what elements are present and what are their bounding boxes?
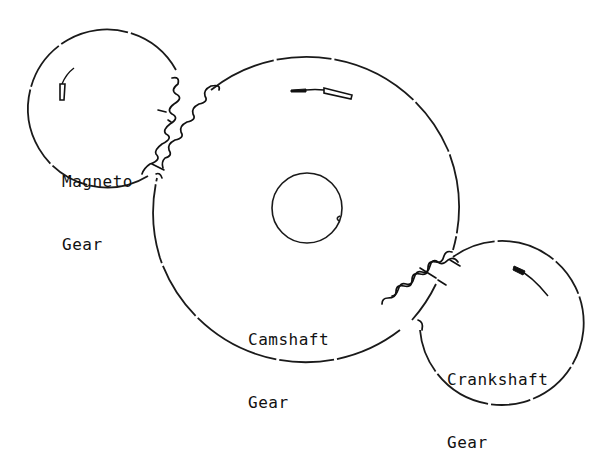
crankshaft-gear-label-line2: Gear [447,432,548,452]
camshaft-hub [272,173,342,243]
crankshaft-gear-label: Crankshaft Gear [447,327,548,452]
crankshaft-rotation-arrow-head-icon [513,266,525,275]
camshaft-rotation-arrow-body-icon [324,88,352,99]
magneto-tooth-tick [168,120,171,122]
magneto-rotation-arrow-head-icon [60,84,65,100]
mesh-tick-3 [158,110,166,112]
crank-tick-2 [438,280,446,285]
crank-tick-3 [450,260,460,266]
mesh-tick-2 [156,174,162,179]
camshaft-teeth-left [162,86,219,169]
camshaft-gear-label-line2: Gear [248,392,329,413]
magneto-gear-label: Magneto Gear [62,129,133,276]
camshaft-gear-label: Camshaft Gear [248,287,329,434]
crankshaft-gear-label-line1: Crankshaft [447,369,548,390]
magneto-camshaft-mesh [142,78,219,178]
magneto-teeth [142,78,180,174]
magneto-gear-label-line1: Magneto [62,171,133,192]
magneto-rotation-arrow-icon [62,68,74,84]
crankshaft-teeth [392,258,458,330]
camshaft-rotation-arrow-tip-icon [291,89,306,92]
camshaft-gear-label-line1: Camshaft [248,329,329,350]
camshaft-rotation-arrow-icon [306,90,324,91]
camshaft-crankshaft-mesh [382,252,460,331]
magneto-gear-label-line2: Gear [62,234,133,255]
